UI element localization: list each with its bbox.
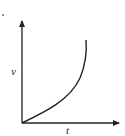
velocity-curve bbox=[22, 40, 86, 123]
x-axis-label: t bbox=[66, 124, 70, 136]
vt-graph: v t bbox=[0, 0, 125, 136]
stray-dot bbox=[2, 14, 4, 16]
y-axis-label: v bbox=[11, 65, 16, 77]
